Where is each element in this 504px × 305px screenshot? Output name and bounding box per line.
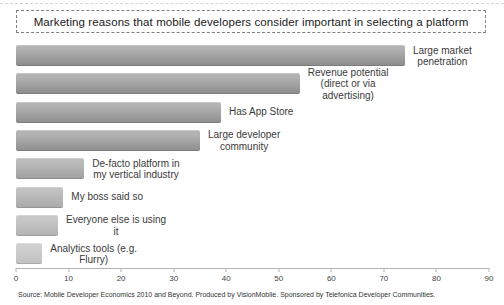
bar-row-everyone-else-is-using-it: Everyone else is using it (16, 215, 489, 243)
x-tick-mark (331, 268, 332, 272)
x-tick-label: 30 (169, 274, 178, 283)
bar-row-large-market-penetration: Large market penetration (16, 45, 489, 73)
x-tick-mark (436, 268, 437, 272)
bar-label-analytics-tools: Analytics tools (e.g. Flurry) (50, 242, 137, 265)
bar-has-app-store[interactable] (16, 102, 221, 123)
bar-revenue-potential[interactable] (16, 73, 300, 94)
bar-label-large-developer-community: Large developer community (208, 129, 280, 152)
bar-row-analytics-tools: Analytics tools (e.g. Flurry) (16, 243, 489, 271)
bar-label-large-market-penetration: Large market penetration (413, 44, 472, 67)
bar-analytics-tools[interactable] (16, 243, 42, 264)
x-tick-label: 90 (485, 274, 494, 283)
bar-de-facto-platform[interactable] (16, 158, 84, 179)
x-tick-label: 40 (222, 274, 231, 283)
bar-label-my-boss-said-so: My boss said so (71, 191, 143, 203)
x-tick-mark (16, 268, 17, 272)
bar-row-large-developer-community: Large developer community (16, 130, 489, 158)
bar-row-my-boss-said-so: My boss said so (16, 187, 489, 215)
x-tick-label: 60 (327, 274, 336, 283)
bar-large-market-penetration[interactable] (16, 45, 405, 66)
x-tick-label: 50 (274, 274, 283, 283)
x-tick-mark (173, 268, 174, 272)
bar-label-revenue-potential: Revenue potential (direct or via adverti… (308, 67, 389, 102)
bar-row-de-facto-platform: De-facto platform in my vertical industr… (16, 158, 489, 186)
x-tick-mark (226, 268, 227, 272)
x-tick-mark (383, 268, 384, 272)
bar-row-has-app-store: Has App Store (16, 102, 489, 130)
bar-my-boss-said-so[interactable] (16, 187, 63, 208)
x-tick-label: 0 (14, 274, 18, 283)
bar-row-revenue-potential: Revenue potential (direct or via adverti… (16, 73, 489, 101)
bar-large-developer-community[interactable] (16, 130, 200, 151)
x-tick-mark (121, 268, 122, 272)
bar-label-has-app-store: Has App Store (229, 106, 293, 118)
bar-label-de-facto-platform: De-facto platform in my vertical industr… (92, 157, 179, 180)
chart-page: Marketing reasons that mobile developers… (0, 0, 504, 305)
x-tick-label: 70 (379, 274, 388, 283)
bar-label-everyone-else-is-using-it: Everyone else is using it (66, 214, 166, 237)
x-axis-line (16, 268, 489, 269)
bar-everyone-else-is-using-it[interactable] (16, 215, 58, 236)
source-note: Source: Mobile Developer Economics 2010 … (18, 291, 498, 298)
x-tick-label: 80 (432, 274, 441, 283)
bar-chart: Large market penetrationRevenue potentia… (0, 0, 504, 305)
x-tick-mark (68, 268, 69, 272)
x-tick-mark (278, 268, 279, 272)
x-tick-mark (489, 268, 490, 272)
x-tick-label: 20 (117, 274, 126, 283)
x-tick-label: 10 (64, 274, 73, 283)
